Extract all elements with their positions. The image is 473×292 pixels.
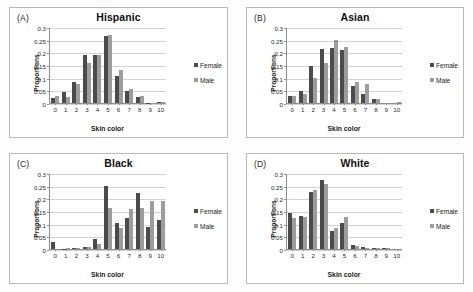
x-tick-label: 3 [82, 252, 93, 259]
bar-group: 10 [155, 28, 166, 103]
legend-item-female[interactable]: Female [194, 62, 222, 69]
legend-item-male[interactable]: Male [194, 77, 222, 84]
y-tick-label: 0.05 [271, 88, 283, 95]
x-axis-label: Skin color [286, 271, 402, 278]
bar-group: 4 [329, 28, 339, 103]
legend-swatch-icon [430, 78, 434, 82]
x-tick-mark [386, 103, 387, 105]
x-tick-mark [119, 103, 120, 105]
x-tick-mark [334, 249, 335, 251]
x-tick-label: 3 [318, 252, 328, 259]
bar-male [355, 82, 359, 103]
bar-male [150, 201, 154, 249]
legend-swatch-icon [194, 63, 198, 67]
bar-male [313, 190, 317, 249]
x-tick-label: 1 [61, 106, 72, 113]
x-tick-label: 1 [61, 252, 72, 259]
x-tick-label: 2 [308, 106, 318, 113]
y-tick-label: 0.3 [274, 25, 283, 32]
bar-group: 3 [318, 28, 328, 103]
bar-group: 9 [381, 28, 391, 103]
bar-group: 5 [339, 174, 349, 249]
x-tick-mark [303, 249, 304, 251]
y-tick-label: 0.2 [274, 50, 283, 57]
x-tick-label: 0 [287, 252, 297, 259]
x-tick-label: 1 [297, 106, 307, 113]
x-tick-mark [324, 249, 325, 251]
bar-male [365, 84, 369, 103]
legend-label: Female [200, 62, 222, 69]
x-tick-label: 9 [381, 252, 391, 259]
bar-male [76, 84, 80, 103]
bar-male [119, 70, 123, 104]
y-tick-label: 0.1 [37, 221, 46, 228]
bar-groups: 012345678910 [287, 28, 402, 103]
bar-male [324, 63, 328, 104]
x-tick-label: 6 [113, 252, 124, 259]
y-axis-label: Proportions [270, 200, 277, 237]
bar-group: 0 [50, 28, 61, 103]
x-tick-mark [376, 249, 377, 251]
bar-male [344, 47, 348, 103]
legend-item-male[interactable]: Male [430, 77, 458, 84]
bar-male [324, 184, 328, 249]
y-tick-label: 0.2 [37, 196, 46, 203]
bar-male [108, 208, 112, 250]
x-tick-mark [97, 249, 98, 251]
bar-group: 4 [92, 174, 103, 249]
legend-item-male[interactable]: Male [194, 223, 222, 230]
x-tick-label: 0 [287, 106, 297, 113]
x-tick-label: 10 [155, 252, 166, 259]
bar-group: 0 [50, 174, 61, 249]
x-tick-label: 4 [329, 106, 339, 113]
x-tick-label: 10 [155, 106, 166, 113]
bar-group: 6 [350, 28, 360, 103]
y-tick-label: 0.1 [274, 75, 283, 82]
bar-male [303, 94, 307, 103]
x-tick-mark [108, 249, 109, 251]
x-tick-mark [386, 249, 387, 251]
y-tick-label: 0 [280, 101, 283, 108]
x-tick-mark [324, 103, 325, 105]
chart-legend: FemaleMale [194, 62, 222, 84]
y-tick-label: 0.05 [34, 88, 46, 95]
y-tick-label: 0.15 [34, 63, 46, 70]
bar-group: 10 [392, 174, 402, 249]
x-tick-mark [55, 103, 56, 105]
x-tick-label: 2 [71, 252, 82, 259]
bar-male [344, 217, 348, 249]
y-tick-label: 0.2 [37, 50, 46, 57]
bar-group: 9 [145, 28, 156, 103]
x-axis-label: Skin color [49, 271, 166, 278]
bar-group: 5 [339, 28, 349, 103]
bar-group: 1 [61, 28, 72, 103]
bar-group: 7 [124, 174, 135, 249]
x-tick-mark [344, 103, 345, 105]
x-tick-label: 10 [392, 106, 402, 113]
bar-male [129, 89, 133, 104]
x-tick-mark [129, 249, 130, 251]
x-tick-label: 6 [350, 252, 360, 259]
bar-group: 2 [308, 174, 318, 249]
x-tick-label: 5 [103, 106, 114, 113]
x-tick-label: 8 [134, 106, 145, 113]
bar-groups: 012345678910 [50, 174, 166, 249]
legend-label: Male [436, 223, 450, 230]
chart-legend: FemaleMale [430, 62, 458, 84]
y-tick-label: 0 [43, 101, 46, 108]
bar-group: 7 [360, 28, 370, 103]
y-tick-label: 0.1 [37, 75, 46, 82]
legend-item-female[interactable]: Female [430, 208, 458, 215]
x-tick-mark [313, 249, 314, 251]
bar-group: 1 [61, 174, 72, 249]
x-tick-label: 7 [360, 252, 370, 259]
legend-label: Male [436, 77, 450, 84]
bar-group: 3 [82, 28, 93, 103]
y-tick-label: 0.2 [274, 196, 283, 203]
legend-item-female[interactable]: Female [430, 62, 458, 69]
chart-legend: FemaleMale [430, 208, 458, 230]
bar-male [129, 209, 133, 249]
x-tick-mark [150, 103, 151, 105]
legend-item-male[interactable]: Male [430, 223, 458, 230]
legend-item-female[interactable]: Female [194, 208, 222, 215]
